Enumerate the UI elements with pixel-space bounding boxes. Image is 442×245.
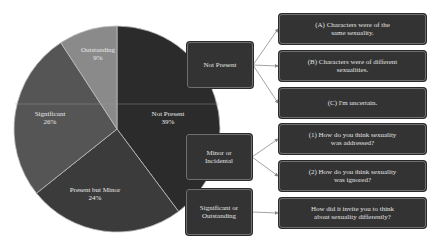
question-box-2: (2) How do you think sexuality was ignor… xyxy=(279,161,426,191)
slice-label-present-but-minor: Present but Minor 24% xyxy=(70,186,121,202)
question-box-invite: How did it invite you to think about sex… xyxy=(279,198,426,228)
category-box-not-present: Not Present xyxy=(187,42,253,88)
question-box-b: (B) Characters were of different sexuali… xyxy=(279,51,426,81)
category-box-significant-or-outstanding: Significant or Outstanding xyxy=(186,189,252,235)
slice-label-not-present: Not Present 39% xyxy=(152,110,185,126)
category-box-minor-or-incidental: Minor or Incidental xyxy=(186,134,252,180)
question-box-a: (A) Characters were of the same sexualit… xyxy=(279,14,426,44)
slice-label-significant: Significant 26% xyxy=(35,110,66,126)
question-box-c: (C) I'm uncertain. xyxy=(279,88,426,118)
slice-label-outstanding: Outstanding 9% xyxy=(81,46,115,62)
question-box-1: (1) How do you think sexuality was addre… xyxy=(279,124,426,154)
